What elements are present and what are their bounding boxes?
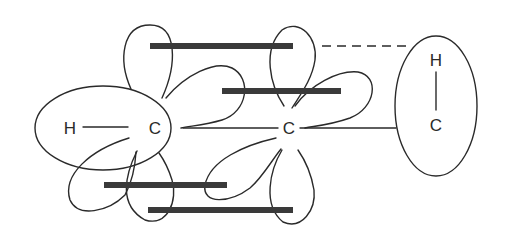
center-upper-right-lobe [295,72,372,128]
left-c-label: C [149,119,161,138]
right-c-label: C [430,116,442,135]
center-c-label: C [283,119,295,138]
left-lower-left-lobe [69,138,136,211]
right-h-label: H [430,51,442,70]
left-upper-lobe [124,25,172,98]
orbital-diagram: H C C H C [0,0,509,235]
left-upper-right-lobe [166,66,245,128]
center-upper-lobe [270,26,315,108]
left-h-label: H [64,119,76,138]
